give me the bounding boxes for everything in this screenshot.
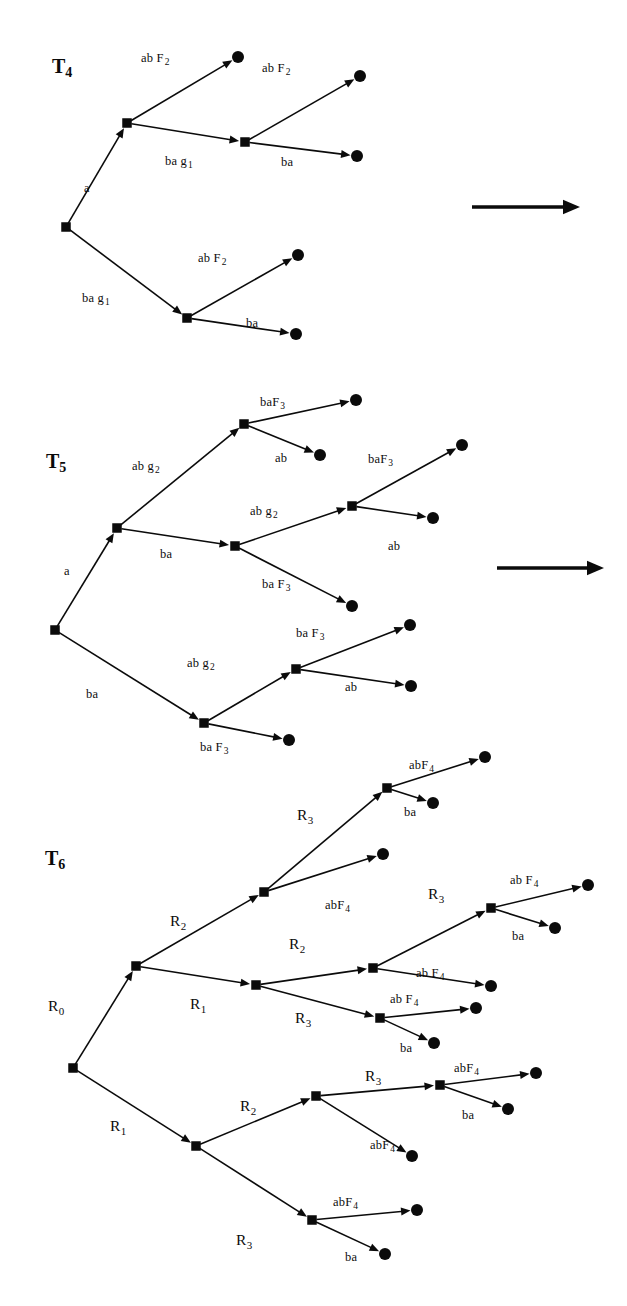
tree-title-T5: T5	[46, 451, 66, 475]
edge-T4-n-a-to-n-a-ba	[131, 124, 239, 144]
leaf-circle-T4-leaf-4	[292, 249, 304, 261]
node-square-T4-n-ba	[182, 313, 192, 323]
edge-label-T6-root-to-n-r1: R1	[110, 1118, 126, 1137]
edge-T6-n-r1-r2-to-n-r1-r2-r3-head	[424, 1082, 434, 1090]
edge-label-T5-n-a-ba-to-n-a-ba-ab: ab g2	[250, 505, 278, 520]
edge-label-T5-n-ba-ab-to-leaf-7: ab	[345, 681, 357, 694]
edge-label-text: baF	[260, 395, 279, 409]
edge-label-T6-n-r1-r2-to-leaf-11: abF4	[370, 1139, 395, 1154]
edge-T6-n-r1-r2-r3-to-leaf-10-head	[492, 1100, 502, 1108]
edge-T6-root-to-n-r0-shaft	[75, 977, 129, 1064]
edge-label-subscript: 2	[285, 67, 291, 77]
leaf-circle-T5-leaf-6	[404, 619, 416, 631]
edge-T5-n-ba-to-leaf-8-head	[273, 733, 283, 741]
edge-label-T5-n-a-ba-ab-to-leaf-4: ab	[388, 540, 400, 553]
edge-T4-n-a-to-leaf-1	[131, 60, 233, 120]
edge-label-subscript: 2	[209, 662, 215, 672]
edge-label-subscript: 3	[387, 458, 393, 468]
edge-T6-n-r0-r2-r3-to-leaf-1-head	[469, 758, 479, 766]
edge-T6-n-r0-r1-to-n-r0-r1-r2	[260, 966, 367, 984]
edge-label-T4-root-to-n-a: a	[84, 182, 90, 195]
leaf-circle-T6-leaf-3	[377, 848, 389, 860]
edge-T5-n-a-ab-to-leaf-2-head	[304, 445, 314, 452]
edge-label-subscript: 2	[299, 943, 305, 955]
edge-label-subscript: 3	[285, 583, 291, 593]
leaf-circle-T5-leaf-2	[314, 449, 326, 461]
edge-label-T5-root-to-n-a: a	[64, 565, 70, 578]
edge-T4-root-to-n-a-head	[116, 128, 124, 138]
edge-label-text: R	[110, 1117, 120, 1134]
tree-title-subscript: 5	[59, 460, 66, 475]
edge-T6-root-to-n-r1-shaft	[77, 1070, 185, 1139]
edge-label-text: ab F	[141, 51, 164, 65]
edge-label-text: ab g	[187, 656, 209, 670]
edge-T4-n-ba-to-leaf-5	[191, 319, 289, 336]
edge-T6-n-r0-r2-r3-to-leaf-2-head	[417, 794, 427, 802]
edge-T6-n-r0-r2-to-leaf-3-head	[367, 855, 377, 863]
edge-label-subscript: 4	[389, 1144, 395, 1154]
edge-T5-n-a-to-n-a-ba-head	[219, 540, 229, 548]
tree-title-letter: T	[46, 450, 59, 472]
edge-T6-n-r0-r1-to-n-r0-r1-r3-shaft	[260, 986, 367, 1015]
edge-label-T4-n-ba-to-leaf-4: ab F2	[198, 252, 227, 267]
edge-T5-n-a-ab-to-leaf-2	[248, 426, 314, 453]
edge-label-text: R	[297, 806, 307, 823]
edge-label-subscript: 4	[344, 904, 350, 914]
edge-T5-root-to-n-ba-head	[189, 711, 199, 719]
node-square-T6-n-r0-r1-r2-r3	[486, 903, 496, 913]
edge-T6-root-to-n-r1	[77, 1070, 191, 1142]
edge-T6-n-r0-r1-r2-r3-to-leaf-4-head	[572, 885, 582, 893]
edge-T4-n-ba-to-leaf-5-shaft	[191, 319, 282, 332]
edge-label-text: baF	[368, 452, 387, 466]
tree-title-letter: T	[45, 847, 58, 869]
node-square-T6-n-r1	[191, 1141, 201, 1151]
leaf-circle-T5-leaf-3	[456, 439, 468, 451]
edge-label-text: ab F	[390, 992, 413, 1006]
leaf-circle-T4-leaf-3	[351, 150, 363, 162]
edge-label-subscript: 3	[279, 401, 285, 411]
edge-T5-n-a-to-n-a-ab	[120, 428, 239, 525]
edge-T4-n-a-ba-to-leaf-3-head	[341, 150, 351, 158]
edge-label-T6-n-r0-r1-r2-r3-to-leaf-4: ab F4	[510, 874, 539, 889]
node-square-T6-n-r0-r1	[251, 980, 261, 990]
edge-label-subscript: 3	[438, 893, 444, 905]
edge-label-T5-n-a-ab-to-leaf-2: ab	[275, 452, 287, 465]
edge-label-T6-n-r1-r2-r3-to-leaf-10: ba	[462, 1109, 474, 1122]
edge-T6-n-r0-r1-r3-to-leaf-8	[384, 1020, 428, 1040]
edge-label-text: ba g	[165, 154, 187, 168]
edge-T5-root-to-n-a-shaft	[57, 539, 110, 626]
leaf-circle-T4-leaf-5	[290, 328, 302, 340]
edge-T6-n-r0-r1-r2-to-leaf-6-head	[475, 980, 485, 988]
leaf-circle-T5-leaf-7	[405, 680, 417, 692]
edge-label-subscript: 2	[272, 510, 278, 520]
edge-label-text: ba	[345, 1250, 357, 1264]
node-square-T6-n-r1-r2	[311, 1091, 321, 1101]
edge-label-subscript: 3	[223, 746, 229, 756]
edge-label-text: ba	[400, 1041, 412, 1055]
edge-T4-root-to-n-ba-head	[172, 305, 182, 314]
edge-label-T4-root-to-n-ba: ba g1	[82, 292, 110, 307]
edge-label-text: ab	[388, 539, 400, 553]
leaf-circle-T5-leaf-8	[283, 734, 295, 746]
edge-label-text: R	[428, 885, 438, 902]
edge-T5-n-ba-ab-to-leaf-7-head	[395, 680, 405, 688]
edge-T6-n-r0-r1-r2-r3-to-leaf-5	[495, 909, 549, 927]
edge-T4-root-to-n-a	[68, 128, 124, 223]
edge-T6-n-r0-r1-r2-r3-to-leaf-5-shaft	[495, 909, 542, 924]
edge-T6-n-r0-r1-to-n-r0-r1-r2-shaft	[260, 970, 360, 985]
edge-T6-n-r0-to-n-r0-r2	[140, 895, 259, 964]
tree-diagram-svg	[0, 0, 627, 1306]
leaf-circle-T6-leaf-4	[582, 879, 594, 891]
edge-label-T6-n-r1-to-n-r1-r2: R2	[240, 1098, 256, 1117]
edge-T5-root-to-n-a	[57, 533, 114, 626]
edge-T6-root-to-n-r0-head	[124, 971, 132, 981]
leaf-circle-T6-leaf-8	[428, 1037, 440, 1049]
edge-T6-n-r0-r1-r3-to-leaf-7-shaft	[384, 1009, 462, 1017]
edge-label-subscript: 2	[164, 57, 170, 67]
edge-label-subscript: 3	[305, 1017, 311, 1029]
edge-T6-n-r1-r3-to-leaf-13-shaft	[316, 1222, 373, 1248]
edge-label-T5-n-a-to-n-a-ab: ab g2	[132, 460, 160, 475]
edge-label-text: ba F	[296, 626, 319, 640]
node-square-T5-n-a	[112, 523, 122, 533]
edge-label-text: ba	[404, 805, 416, 819]
